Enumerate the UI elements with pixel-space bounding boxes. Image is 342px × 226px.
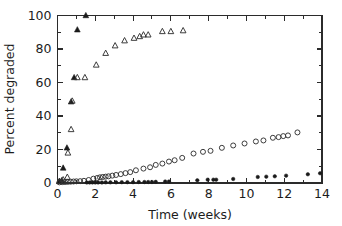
data-point-open-circle: [208, 148, 213, 153]
data-point-open-circle: [172, 158, 177, 163]
data-point-filled-triangle: [60, 165, 66, 170]
data-point-filled-circle: [306, 173, 310, 177]
data-point-open-triangle: [168, 28, 174, 33]
data-point-open-circle: [295, 130, 300, 135]
x-tick-label: 12: [276, 186, 292, 201]
x-tick-label: 0: [54, 186, 62, 201]
data-point-open-circle: [261, 138, 266, 143]
y-axis-minor-ticks: [58, 32, 323, 166]
x-tick-label: 6: [167, 186, 175, 201]
data-point-filled-circle: [167, 180, 171, 184]
figure-container: 02468101214 020406080100 Time (weeks) Pe…: [0, 0, 342, 226]
data-point-filled-circle: [131, 180, 135, 184]
y-axis-title: Percent degraded: [2, 44, 17, 155]
data-point-open-circle: [153, 162, 158, 167]
data-point-open-triangle: [112, 43, 118, 48]
series-open-circles: [57, 130, 300, 185]
y-tick-label: 20: [36, 142, 52, 157]
data-point-open-circle: [160, 161, 165, 166]
data-point-open-circle: [270, 135, 275, 140]
y-tick-label: 80: [36, 41, 52, 56]
data-point-open-circle: [231, 143, 236, 148]
y-axis-tick-labels: 020406080100: [28, 8, 52, 191]
data-point-open-circle: [141, 166, 146, 171]
data-point-filled-circle: [154, 180, 158, 184]
data-point-open-circle: [166, 159, 171, 164]
data-point-open-circle: [285, 133, 290, 138]
scatter-chart: 02468101214 020406080100 Time (weeks) Pe…: [0, 0, 342, 226]
x-tick-label: 10: [238, 186, 254, 201]
data-point-filled-circle: [231, 177, 235, 181]
data-point-open-circle: [180, 155, 185, 160]
data-point-filled-circle: [120, 180, 124, 184]
data-point-open-circle: [253, 139, 258, 144]
data-point-filled-circle: [150, 180, 154, 184]
x-tick-label: 4: [129, 186, 137, 201]
data-point-open-circle: [118, 172, 123, 177]
y-tick-label: 60: [36, 75, 52, 90]
data-point-filled-circle: [265, 175, 269, 179]
data-markers-layer: [57, 12, 322, 184]
data-point-filled-circle: [126, 180, 129, 184]
data-point-filled-circle: [196, 179, 200, 183]
data-point-open-triangle: [145, 32, 151, 37]
x-axis-minor-ticks: [76, 16, 303, 184]
plot-frame: [58, 16, 323, 184]
data-point-open-triangle: [65, 150, 71, 155]
data-point-open-circle: [242, 141, 247, 146]
data-point-filled-circle: [284, 174, 288, 178]
data-point-filled-circle: [206, 178, 210, 182]
x-tick-label: 8: [205, 186, 213, 201]
data-point-filled-circle: [104, 181, 108, 185]
data-point-open-triangle: [131, 35, 137, 40]
data-point-open-triangle: [122, 38, 128, 43]
y-tick-label: 0: [44, 175, 52, 190]
data-point-open-circle: [148, 165, 153, 170]
y-axis-major-ticks: [58, 16, 323, 184]
data-point-filled-circle: [100, 181, 104, 185]
data-point-open-triangle: [68, 126, 74, 131]
data-point-filled-circle: [214, 178, 218, 182]
x-tick-label: 14: [314, 186, 330, 201]
data-point-open-circle: [219, 145, 224, 150]
data-point-filled-triangle: [74, 27, 80, 32]
data-point-filled-triangle: [64, 145, 70, 150]
data-point-open-circle: [191, 151, 196, 156]
data-point-open-circle: [276, 135, 281, 140]
data-point-filled-circle: [143, 180, 147, 184]
x-axis-major-ticks: [58, 16, 323, 184]
data-point-open-triangle: [64, 174, 70, 179]
x-axis-tick-labels: 02468101214: [54, 186, 330, 201]
x-tick-label: 2: [91, 186, 99, 201]
data-point-filled-circle: [109, 181, 113, 185]
data-point-filled-circle: [256, 175, 260, 179]
data-point-filled-circle: [163, 180, 167, 184]
data-point-filled-circle: [137, 180, 141, 184]
data-point-open-triangle: [93, 62, 99, 67]
data-point-open-circle: [128, 170, 133, 175]
data-point-open-circle: [123, 171, 128, 176]
data-point-open-circle: [281, 134, 286, 139]
data-point-open-triangle: [160, 28, 166, 33]
y-tick-label: 100: [28, 8, 52, 23]
data-point-filled-circle: [318, 172, 322, 176]
data-point-filled-circle: [114, 181, 118, 185]
data-point-open-triangle: [103, 50, 109, 55]
series-filled-circles: [85, 172, 322, 185]
y-tick-label: 40: [36, 108, 52, 123]
data-point-open-triangle: [82, 74, 88, 79]
data-point-open-circle: [133, 168, 138, 173]
data-point-open-triangle: [180, 27, 186, 32]
data-point-filled-circle: [273, 175, 277, 179]
data-point-filled-circle: [96, 181, 100, 185]
data-point-filled-circle: [146, 180, 150, 184]
x-axis-title: Time (weeks): [147, 207, 232, 222]
data-point-open-circle: [200, 149, 205, 154]
